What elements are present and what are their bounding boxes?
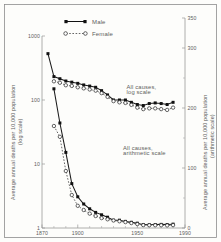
legend-label-male: Male [92,19,106,25]
data-point-male-g0-1 [52,75,55,78]
right-axis-title-line1: Average annual deaths per 10,000 populat… [202,95,208,210]
figure-container: 1101001000 0100200300350 187019001950199… [0,0,221,242]
data-point-female-g0-6 [88,88,91,91]
right-tick-label-300: 300 [188,45,197,51]
data-point-female-g0-13 [130,103,133,106]
data-point-female-g1-8 [100,216,103,219]
data-point-female-g1-9 [106,218,109,221]
data-point-male-g0-16 [142,104,145,107]
chart-annotations: All causes,log scaleAll causes,arithmeti… [123,84,166,156]
data-point-male-g1-8 [100,213,103,216]
data-point-female-g0-12 [124,101,127,104]
data-point-female-g0-2 [64,84,67,87]
x-tick-label-1950: 1950 [131,230,143,236]
data-point-male-g1-5 [82,203,85,206]
data-point-male-g0-3 [64,80,67,83]
data-point-male-g1-0 [52,87,55,90]
data-point-female-g0-20 [171,106,174,109]
data-point-female-g0-8 [100,91,103,94]
data-point-female-g1-18 [159,224,162,227]
data-point-female-g0-10 [112,99,115,102]
right-tick-label-350: 350 [188,15,197,21]
data-point-female-g0-0 [52,80,55,83]
data-point-female-g0-7 [94,89,97,92]
data-point-female-g1-12 [124,220,127,223]
data-point-female-g1-14 [136,222,139,225]
data-point-male-g0-8 [94,86,97,89]
data-point-female-g0-4 [76,86,79,89]
data-point-female-g1-1 [58,135,61,138]
data-point-male-g1-1 [58,122,61,125]
right-axis-title-line2: (arithmetic scale) [209,114,215,158]
data-point-male-g1-7 [94,211,97,214]
legend-female-marker-end [84,32,88,36]
right-tick-label-200: 200 [188,105,197,111]
data-point-female-g1-16 [148,224,151,227]
data-point-male-g1-3 [70,182,73,185]
data-point-female-g1-6 [88,212,91,215]
data-point-male-g0-5 [76,82,79,85]
data-point-female-g1-13 [130,221,133,224]
data-point-female-g0-14 [136,106,139,109]
legend-male-marker-start [64,20,67,23]
data-point-female-g1-0 [52,124,55,127]
data-point-female-g1-20 [171,223,174,226]
data-point-female-g0-16 [148,107,151,110]
data-point-female-g0-19 [165,108,168,111]
data-point-female-g0-17 [154,107,157,110]
mortality-line-chart: 1101001000 0100200300350 187019001950199… [0,0,221,242]
right-axis-ticks: 0100200300350 [182,15,196,231]
data-point-male-g1-2 [64,151,67,154]
left-axis-title-line2: (log scale) [17,118,23,145]
left-tick-label-10: 10 [34,161,40,167]
data-point-female-g1-2 [64,169,67,172]
data-point-male-g1-4 [76,195,79,198]
data-point-female-g1-7 [94,214,97,217]
data-point-female-g1-17 [154,224,157,227]
data-point-female-g1-10 [112,219,115,222]
data-point-male-g0-19 [160,102,163,105]
data-point-female-g0-9 [106,95,109,98]
series-layer [46,52,174,227]
data-point-female-g0-15 [142,107,145,110]
x-tick-label-1990: 1990 [179,230,191,236]
data-point-male-g0-21 [172,101,175,104]
data-point-female-g0-1 [58,81,61,84]
data-point-female-g1-3 [70,193,73,196]
data-point-female-g1-4 [76,204,79,207]
data-point-female-g1-11 [118,220,121,223]
data-point-male-g0-6 [82,83,85,86]
data-point-male-g0-0 [46,52,49,55]
x-tick-label-1900: 1900 [72,230,84,236]
plot-axes [42,18,185,228]
data-point-female-g0-18 [159,107,162,110]
legend-male-marker-end [83,20,86,23]
data-point-male-g0-20 [166,103,169,106]
legend: Male Female [64,19,114,37]
legend-label-female: Female [92,31,113,37]
x-tick-label-1870: 1870 [36,230,48,236]
data-point-female-g0-5 [82,87,85,90]
data-point-female-g1-5 [82,208,85,211]
left-axis-ticks: 1101001000 [28,33,45,231]
right-tick-label-100: 100 [188,165,197,171]
data-point-female-g0-3 [70,84,73,87]
data-point-female-g1-15 [142,223,145,226]
data-point-male-g0-17 [148,102,151,105]
data-point-female-g0-11 [118,101,121,104]
data-point-male-g0-18 [154,101,157,104]
legend-female-marker-start [64,32,68,36]
data-point-male-g0-2 [58,77,61,80]
data-point-male-g1-6 [88,207,91,210]
data-point-male-g0-7 [88,85,91,88]
annotation-3: arithmetic scale [123,150,166,156]
left-tick-label-100: 100 [31,97,40,103]
left-axis-title-line1: Average annual deaths per 10,000 populat… [10,85,16,200]
left-tick-label-1000: 1000 [28,33,40,39]
series-line-female-g1 [54,126,173,225]
annotation-1: log scale [127,89,151,95]
data-point-male-g0-4 [70,81,73,84]
data-point-female-g1-19 [165,224,168,227]
